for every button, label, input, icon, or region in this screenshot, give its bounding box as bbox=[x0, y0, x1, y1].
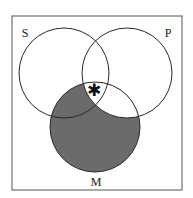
venn-diagram: S P M ✱ bbox=[0, 0, 193, 198]
set-m-label: M bbox=[91, 175, 102, 189]
existence-marker-asterisk: ✱ bbox=[87, 80, 101, 100]
set-s-label: S bbox=[22, 26, 29, 40]
set-p-label: P bbox=[165, 26, 172, 40]
